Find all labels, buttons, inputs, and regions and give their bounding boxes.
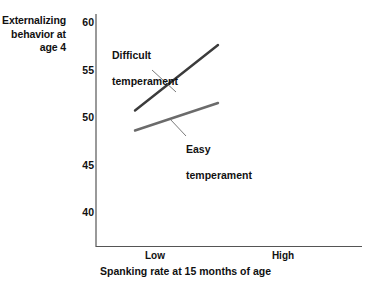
annotation-easy-line-2: temperament	[186, 169, 252, 182]
annotation-difficult-line-2: temperament	[112, 75, 178, 88]
annotation-easy-line-1: Easy	[186, 143, 252, 156]
annotation-easy-temperament: Easy temperament	[186, 130, 252, 195]
chart-container: Externalizing behavior at age 4 60 55 50…	[0, 0, 371, 288]
annotation-difficult-line-1: Difficult	[112, 49, 178, 62]
annotation-difficult-temperament: Difficult temperament	[112, 36, 178, 101]
leader-line-easy-temperament	[170, 119, 186, 136]
